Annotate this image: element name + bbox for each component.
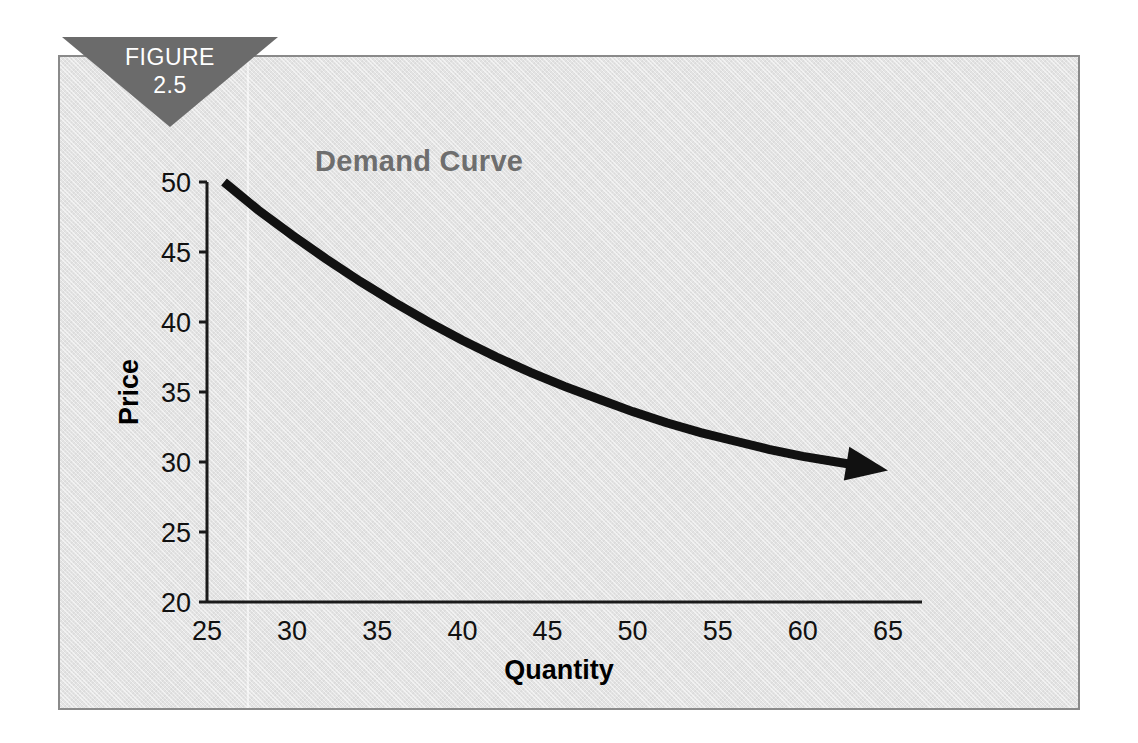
x-axis-title: Quantity: [504, 655, 614, 685]
x-tick-label-25: 25: [192, 616, 222, 646]
figure-root: Demand Curve 20 25 30 35 40 45 50 25: [0, 0, 1138, 743]
y-tick-label-50: 50: [161, 168, 191, 198]
demand-curve: [224, 182, 871, 468]
y-tick-label-45: 45: [161, 238, 191, 268]
y-tick-label-20: 20: [161, 588, 191, 618]
figure-badge-number: 2.5: [62, 72, 278, 99]
plot-area: 20 25 30 35 40 45 50 25 30 35 40 45 50 5…: [60, 57, 1082, 712]
x-tick-label-65: 65: [873, 616, 903, 646]
y-tick-label-35: 35: [161, 378, 191, 408]
x-tick-label-60: 60: [788, 616, 818, 646]
figure-number-badge: FIGURE 2.5: [62, 37, 278, 127]
x-tick-label-40: 40: [447, 616, 477, 646]
figure-badge-kicker: FIGURE: [62, 44, 278, 71]
x-tick-label-30: 30: [277, 616, 307, 646]
x-tick-label-45: 45: [532, 616, 562, 646]
x-tick-label-35: 35: [362, 616, 392, 646]
y-tick-label-25: 25: [161, 518, 191, 548]
y-tick-label-40: 40: [161, 308, 191, 338]
y-axis-title: Price: [114, 359, 144, 425]
y-tick-label-30: 30: [161, 448, 191, 478]
x-tick-label-55: 55: [703, 616, 733, 646]
demand-curve-arrowhead: [844, 447, 888, 481]
figure-panel: Demand Curve 20 25 30 35 40 45 50 25: [58, 55, 1080, 710]
x-tick-label-50: 50: [618, 616, 648, 646]
